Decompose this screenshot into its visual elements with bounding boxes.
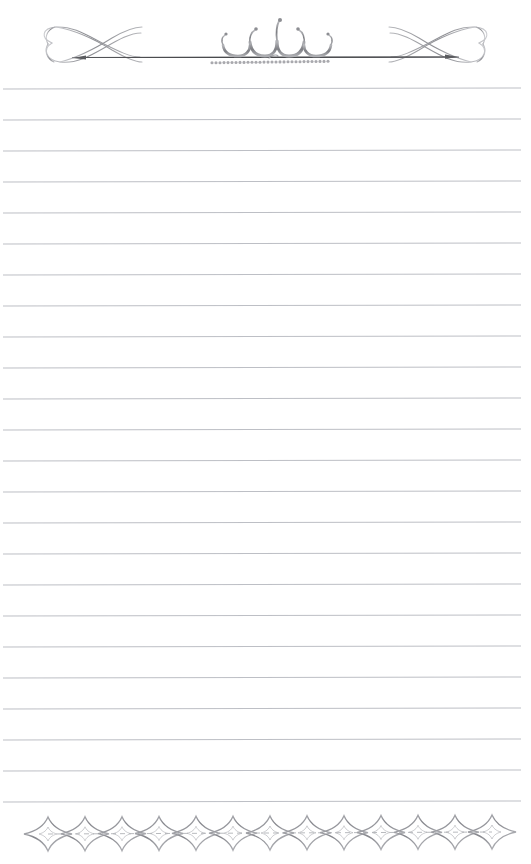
footer-ornament <box>0 804 531 864</box>
header-ornament <box>0 0 531 82</box>
pearl-row <box>210 60 329 65</box>
writing-area[interactable] <box>3 90 521 802</box>
crown-icon <box>222 18 332 58</box>
stationery-page <box>0 0 531 864</box>
star-motif <box>283 816 331 850</box>
star-chain <box>24 815 516 851</box>
